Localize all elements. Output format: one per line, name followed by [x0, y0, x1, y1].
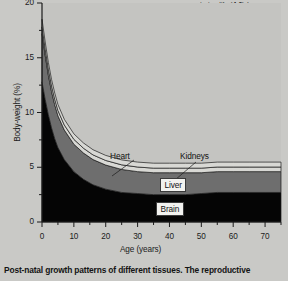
x-tick-label: 30 — [126, 232, 150, 241]
x-tick-label: 20 — [94, 232, 118, 241]
x-axis-label: Age (years) — [120, 245, 161, 254]
series-label-kidneys: Kidneys — [180, 151, 209, 161]
y-tick-label: 20 — [12, 0, 34, 7]
x-tick-label: 40 — [157, 232, 181, 241]
series-label-liver: Liver — [160, 178, 186, 192]
y-tick-label: 10 — [12, 108, 34, 117]
figure-caption: Post-natal growth patterns of different … — [4, 265, 288, 276]
y-tick-label: 0 — [12, 217, 34, 226]
series-label-brain: Brain — [156, 202, 184, 216]
x-tick-label: 50 — [189, 232, 213, 241]
x-tick-label: 70 — [253, 232, 277, 241]
x-tick-label: 60 — [221, 232, 245, 241]
y-tick-label: 15 — [12, 53, 34, 62]
x-tick-label: 0 — [30, 232, 54, 241]
y-tick-label: 5 — [12, 162, 34, 171]
stacked-area-chart: Body-weight (%) Age (years) 051015200102… — [0, 0, 288, 252]
series-label-heart: Heart — [110, 151, 130, 161]
x-tick-label: 10 — [62, 232, 86, 241]
chart-canvas — [0, 0, 288, 252]
figure-panel: uterine life (4.6) (ne trimester, but gl… — [0, 0, 288, 281]
